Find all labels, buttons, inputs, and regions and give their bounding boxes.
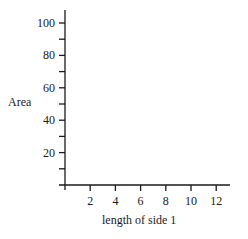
chart-area: 2040608010024681012 Area length of side … (0, 0, 248, 239)
y-tick-label: 100 (25, 17, 55, 29)
y-tick-label: 20 (25, 147, 55, 159)
x-tick-label: 2 (78, 195, 102, 207)
x-tick-label: 10 (179, 195, 203, 207)
y-tick-label: 60 (25, 82, 55, 94)
y-tick-label: 80 (25, 49, 55, 61)
x-tick-label: 8 (154, 195, 178, 207)
x-tick-label: 12 (204, 195, 228, 207)
y-axis-label: Area (8, 96, 31, 108)
y-tick-label: 40 (25, 114, 55, 126)
x-axis-label: length of side 1 (102, 214, 176, 226)
x-tick-label: 6 (129, 195, 153, 207)
x-tick-label: 4 (103, 195, 127, 207)
